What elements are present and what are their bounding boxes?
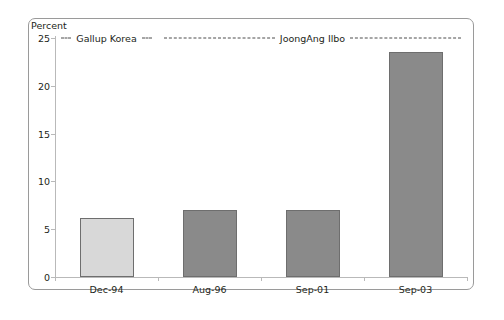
y-axis-tick-label: 20 [38, 80, 50, 91]
y-axis-tick-label: 10 [38, 176, 50, 187]
bar-series [55, 38, 467, 277]
annotation-dash-right [350, 38, 461, 39]
y-axis-tick-label: 15 [38, 128, 50, 139]
x-axis-tick-label: Sep-01 [296, 284, 329, 295]
chart-annotation: Gallup Korea [61, 33, 152, 44]
y-axis-tick-label: 25 [38, 33, 50, 44]
annotation-label: JoongAng Ilbo [275, 33, 350, 44]
annotation-dash-left [164, 38, 275, 39]
x-axis-tick-mark [261, 277, 262, 281]
x-axis-tick-mark [364, 277, 365, 281]
annotation-label: Gallup Korea [71, 33, 141, 44]
x-axis-tick-mark [55, 277, 56, 281]
bar [389, 52, 443, 277]
chart-figure: Percent 0510152025 Dec-94Aug-96Sep-01Sep… [0, 0, 504, 320]
x-axis-tick-label: Dec-94 [90, 284, 124, 295]
bar [286, 210, 340, 277]
bar [80, 218, 134, 277]
x-axis-tick-label: Sep-03 [399, 284, 432, 295]
chart-annotation: JoongAng Ilbo [164, 33, 461, 44]
annotation-dash-left [61, 38, 71, 39]
x-axis-tick-label: Aug-96 [192, 284, 226, 295]
x-axis-tick-mark [158, 277, 159, 281]
bar [183, 210, 237, 277]
annotation-dash-right [142, 38, 152, 39]
y-axis-tick-label: 0 [44, 272, 50, 283]
y-axis-tick-label: 5 [44, 224, 50, 235]
x-axis-tick-mark [467, 277, 468, 281]
y-axis-tick-labels: 0510152025 [0, 0, 50, 320]
